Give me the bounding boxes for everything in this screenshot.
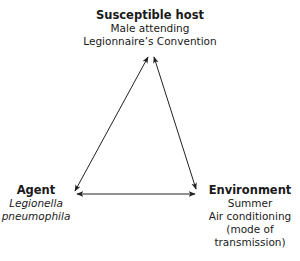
node-agent: Agent Legionella pneumophila bbox=[0, 183, 72, 223]
environment-line-4: transmission) bbox=[198, 236, 300, 249]
node-susceptible-host: Susceptible host Male attending Legionna… bbox=[60, 8, 240, 48]
host-title: Susceptible host bbox=[60, 8, 240, 22]
environment-line-3: (mode of bbox=[198, 223, 300, 236]
arrow-host-agent bbox=[75, 57, 148, 191]
node-environment: Environment Summer Air conditioning (mod… bbox=[198, 183, 300, 249]
environment-line-2: Air conditioning bbox=[198, 210, 300, 223]
agent-title: Agent bbox=[0, 183, 72, 197]
host-line-2: Legionnaire’s Convention bbox=[60, 35, 240, 48]
host-line-1: Male attending bbox=[60, 22, 240, 35]
environment-line-1: Summer bbox=[198, 197, 300, 210]
environment-title: Environment bbox=[198, 183, 300, 197]
arrow-host-environment bbox=[154, 57, 196, 189]
agent-line-1: Legionella bbox=[0, 197, 72, 210]
agent-line-2: pneumophila bbox=[0, 210, 72, 223]
